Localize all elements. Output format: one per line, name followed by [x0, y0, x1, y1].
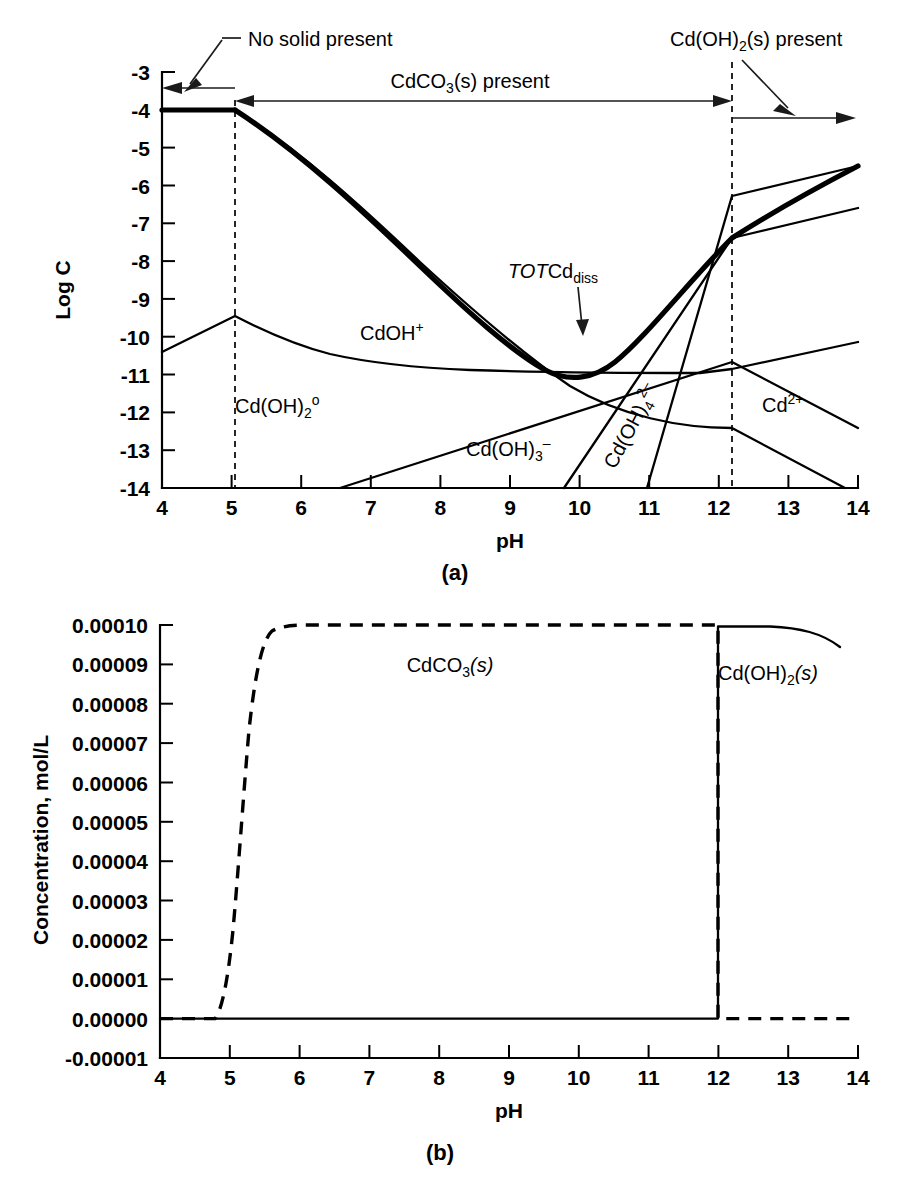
panel-b-ytick-9: 0.00001 — [72, 968, 148, 991]
leader-no-solid — [184, 38, 241, 92]
panel-b-xtick-2: 6 — [294, 1066, 306, 1089]
panel-b-ytick-5: 0.00005 — [72, 811, 148, 834]
panel-a-xtick-8: 12 — [707, 496, 730, 519]
panel-a-y-axis-title: Log C — [51, 260, 74, 319]
panel-a-ytick-8: -11 — [121, 364, 151, 387]
panel-a-ytick-7: -10 — [120, 326, 150, 349]
label-panel-b-cdco3: CdCO3(s) — [407, 654, 494, 680]
panel-a-xtick-10: 14 — [846, 496, 870, 519]
panel-b-xtick-8: 12 — [707, 1066, 730, 1089]
panel-b-ytick-7: 0.00003 — [72, 890, 148, 913]
label-cdoh2-aqueous: Cd(OH)2o — [235, 392, 320, 421]
panel-a-xtick-6: 10 — [568, 496, 591, 519]
annotation-cdoh2-present: Cd(OH)2(s) present — [670, 28, 843, 54]
panel-a-xtick-7: 11 — [638, 496, 661, 519]
curve-cdco3-solid — [160, 625, 858, 1019]
panel-a-y-ticks — [162, 72, 175, 488]
panel-b-xtick-10: 14 — [846, 1066, 870, 1089]
annotation-no-solid-present: No solid present — [248, 28, 393, 50]
panel-a-chart: -3 -4 -5 -6 -7 -8 -9 -10 -11 -12 -13 -14… — [0, 0, 907, 600]
panel-a-xtick-9: 13 — [777, 496, 800, 519]
panel-a-ytick-3: -6 — [131, 175, 150, 198]
panel-a-ytick-2: -5 — [131, 137, 150, 160]
panel-a-ytick-9: -12 — [120, 401, 150, 424]
curve-cd2plus — [235, 110, 845, 488]
leader-tot-cd-diss — [576, 287, 589, 336]
panel-a-ytick-4: -7 — [131, 212, 150, 235]
panel-b-ytick-0: 0.00010 — [72, 614, 148, 637]
panel-b-y-ticks — [160, 625, 173, 1058]
panel-b-y-axis-title: Concentration, mol/L — [29, 735, 52, 945]
panel-b-ytick-8: 0.00002 — [72, 929, 148, 952]
panel-b-xtick-4: 8 — [433, 1066, 445, 1089]
panel-b-ytick-11: -0.00001 — [65, 1047, 148, 1070]
panel-a-xtick-0: 4 — [156, 496, 168, 519]
annotation-cdco3-present: CdCO3(s) present — [391, 70, 550, 96]
panel-b-ytick-4: 0.00006 — [72, 772, 148, 795]
panel-b-xtick-9: 13 — [777, 1066, 800, 1089]
panel-b-label: (b) — [426, 1140, 454, 1165]
region-arrow-cdco3 — [235, 95, 732, 107]
panel-a-x-axis-title: pH — [496, 529, 524, 552]
panel-b-xtick-3: 7 — [364, 1066, 376, 1089]
label-cdoh-plus: CdOH+ — [360, 319, 424, 344]
panel-b-x-axis-title: pH — [495, 1099, 523, 1122]
panel-a-ytick-6: -9 — [131, 288, 150, 311]
curve-cdoh2-solid — [160, 627, 840, 1019]
panel-b-x-ticks — [160, 1045, 858, 1058]
figure-root: -3 -4 -5 -6 -7 -8 -9 -10 -11 -12 -13 -14… — [0, 0, 907, 1180]
panel-b-chart: 0.00010 0.00009 0.00008 0.00007 0.00006 … — [0, 600, 907, 1180]
label-cdoh3-minus: Cd(OH)3– — [466, 435, 551, 464]
panel-b-ytick-2: 0.00008 — [72, 693, 148, 716]
region-arrow-cdoh2 — [732, 112, 856, 124]
panel-a-xtick-5: 9 — [504, 496, 516, 519]
panel-a-ytick-0: -3 — [131, 61, 150, 84]
panel-b-xtick-0: 4 — [154, 1066, 166, 1089]
panel-a-ytick-1: -4 — [131, 99, 150, 122]
panel-a-xtick-3: 7 — [365, 496, 377, 519]
label-cd2plus: Cd2+ — [762, 391, 804, 416]
label-panel-b-cdoh2: Cd(OH)2(s) — [718, 662, 818, 688]
panel-b-xtick-6: 10 — [567, 1066, 590, 1089]
panel-a-ytick-5: -8 — [131, 250, 150, 273]
panel-b-xtick-5: 9 — [503, 1066, 515, 1089]
panel-b-xtick-7: 11 — [637, 1066, 660, 1089]
curve-tot-cd-dissolved — [235, 110, 858, 377]
curve-cdoh2-aqueous — [340, 362, 858, 488]
panel-b-ytick-6: 0.00004 — [72, 850, 148, 873]
leader-cdoh2-present — [742, 60, 796, 116]
panel-a-ytick-10: -13 — [120, 439, 150, 462]
panel-b-ytick-1: 0.00009 — [72, 653, 148, 676]
panel-a-xtick-2: 6 — [295, 496, 307, 519]
panel-b-ytick-3: 0.00007 — [72, 732, 148, 755]
panel-a-label: (a) — [442, 560, 469, 585]
panel-b-ytick-10: 0.00000 — [72, 1008, 148, 1031]
panel-a-xtick-4: 8 — [435, 496, 447, 519]
panel-a-x-ticks — [162, 475, 858, 488]
panel-b-xtick-1: 5 — [224, 1066, 236, 1089]
label-tot-cd-diss: TOTCddiss — [508, 260, 598, 286]
panel-a-ytick-11: -14 — [120, 477, 151, 500]
panel-a-xtick-1: 5 — [226, 496, 238, 519]
